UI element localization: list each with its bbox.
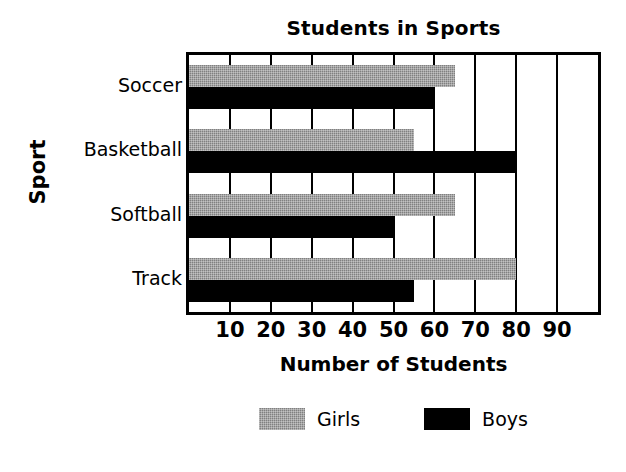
bar-softball-girls	[189, 194, 455, 216]
category-label-soccer: Soccer	[12, 74, 182, 96]
bar-softball-boys	[189, 216, 394, 238]
x-axis-tick-labels: 102030405060708090	[186, 318, 601, 348]
bar-track-girls	[189, 258, 516, 280]
x-tick-label-90: 90	[533, 318, 581, 342]
legend-entry-girls: Girls	[259, 408, 360, 430]
bar-soccer-boys	[189, 87, 434, 109]
legend-label-boys: Boys	[482, 408, 528, 430]
gridline-x-90	[556, 55, 558, 312]
category-label-basketball: Basketball	[12, 138, 182, 160]
category-label-softball: Softball	[12, 203, 182, 225]
legend-swatch-girls	[259, 408, 305, 430]
category-axis-labels: SoccerBasketballSoftballTrack	[10, 52, 182, 315]
x-axis-title: Number of Students	[186, 352, 601, 376]
plot-area	[186, 52, 601, 315]
bar-basketball-girls	[189, 129, 414, 151]
chart-container: Students in Sports Sport SoccerBasketbal…	[0, 0, 626, 472]
legend-swatch-boys	[424, 408, 470, 430]
chart-legend: GirlsBoys	[186, 408, 601, 430]
plot-inner	[189, 55, 598, 312]
bar-track-boys	[189, 280, 414, 302]
bar-soccer-girls	[189, 65, 455, 87]
legend-label-girls: Girls	[317, 408, 360, 430]
legend-entry-boys: Boys	[424, 408, 528, 430]
bar-basketball-boys	[189, 151, 516, 173]
category-label-track: Track	[12, 267, 182, 289]
chart-title: Students in Sports	[186, 16, 601, 40]
